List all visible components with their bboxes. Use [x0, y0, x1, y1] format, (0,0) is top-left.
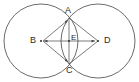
point-label-a: A — [65, 6, 71, 15]
segment-cd-line — [69, 41, 98, 64]
point-label-b: B — [30, 36, 36, 45]
point-d-dot — [97, 40, 99, 42]
point-label-e: E — [71, 33, 76, 42]
geometry-figure: A B C D E — [0, 0, 139, 82]
segment-ba-line — [43, 20, 68, 41]
point-e-dot — [68, 40, 70, 42]
point-label-d: D — [104, 36, 111, 45]
point-label-c: C — [66, 66, 73, 75]
point-b-dot — [40, 40, 42, 42]
segment-bc-line — [43, 41, 68, 62]
